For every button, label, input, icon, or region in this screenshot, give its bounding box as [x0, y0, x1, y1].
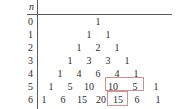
cell-2-1: 2 [89, 41, 107, 54]
pascals-triangle-figure: n 0 1 2 3 4 5 6 1 1 1 1 2 1 1 3 3 1 1 4 … [0, 0, 178, 109]
cell-3-3: 1 [118, 54, 136, 67]
cell-5-2: 10 [80, 80, 98, 93]
row-label-2: 2 [25, 41, 36, 54]
cell-1-1: 1 [99, 28, 117, 41]
cell-2-2: 1 [108, 41, 126, 54]
cell-5-4: 5 [126, 80, 144, 93]
row-label-0: 0 [25, 15, 36, 28]
cell-0-0: 1 [89, 15, 107, 28]
row-label-5: 5 [25, 80, 36, 93]
cell-6-2: 15 [73, 93, 91, 106]
axis-label-n: n [26, 0, 37, 13]
cell-3-1: 3 [80, 54, 98, 67]
cell-4-3: 4 [108, 67, 126, 80]
cell-5-0: 1 [42, 80, 60, 93]
row-label-4: 4 [25, 67, 36, 80]
cell-6-5: 6 [128, 93, 146, 106]
row-label-1: 1 [25, 28, 36, 41]
cell-6-3: 20 [92, 93, 110, 106]
cell-1-0: 1 [80, 28, 98, 41]
cell-4-0: 1 [51, 67, 69, 80]
cell-4-4: 1 [127, 67, 145, 80]
cell-6-0: 1 [35, 93, 53, 106]
cell-5-1: 5 [61, 80, 79, 93]
cell-5-3: 10 [104, 80, 122, 93]
row-label-3: 3 [25, 54, 36, 67]
cell-6-4: 15 [109, 93, 127, 106]
cell-2-0: 1 [70, 41, 88, 54]
cell-3-2: 3 [99, 54, 117, 67]
cell-4-2: 6 [89, 67, 107, 80]
cell-4-1: 4 [70, 67, 88, 80]
cell-3-0: 1 [61, 54, 79, 67]
cell-5-5: 1 [147, 80, 165, 93]
cell-6-6: 1 [149, 93, 167, 106]
cell-6-1: 6 [54, 93, 72, 106]
